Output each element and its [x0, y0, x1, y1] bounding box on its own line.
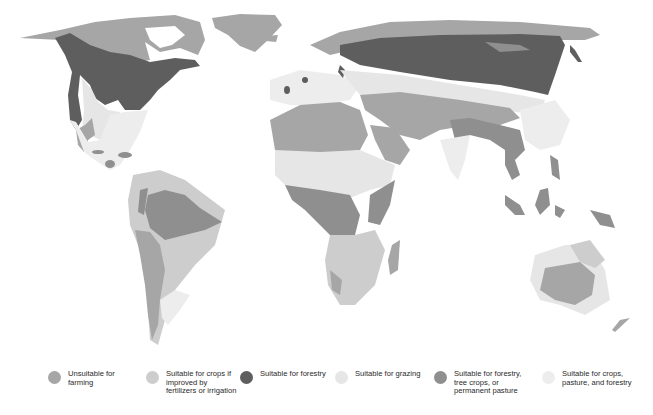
india-crops [440, 135, 470, 180]
legend-swatch-grazing [335, 371, 348, 384]
legend-label-crops-pasture-forestry: Suitable for crops,pasture, and forestry [562, 370, 632, 387]
north-america-region [20, 15, 205, 170]
legend-label-unsuitable: Unsuitable forfarming [68, 370, 115, 387]
legend-label-grazing: Suitable for grazing [355, 370, 420, 379]
legend-swatch-crops-if-improved [146, 371, 159, 384]
madagascar [388, 240, 400, 275]
legend-item-grazing: Suitable for grazing [335, 370, 420, 384]
legend-item-forestry-tree-crops-pasture: Suitable for forestry,tree crops, orperm… [434, 370, 521, 396]
legend-swatch-forestry-tree-crops-pasture [434, 371, 447, 384]
legend-swatch-forestry [240, 371, 253, 384]
iceland [265, 35, 278, 42]
map-legend: Unsuitable forfarming Suitable for crops… [0, 370, 653, 415]
legend-item-crops-if-improved: Suitable for crops ifimproved byfertiliz… [146, 370, 236, 396]
legend-label-forestry: Suitable for forestry [260, 370, 326, 379]
legend-label-crops-if-improved: Suitable for crops ifimproved byfertiliz… [166, 370, 236, 396]
australia-region [530, 240, 630, 332]
new-zealand [612, 318, 630, 332]
world-land-suitability-map [0, 0, 653, 345]
south-america-region [128, 170, 225, 345]
legend-label-forestry-tree-crops-pasture: Suitable for forestry,tree crops, orperm… [454, 370, 521, 396]
legend-item-crops-pasture-forestry: Suitable for crops,pasture, and forestry [542, 370, 632, 387]
southeast-asia-islands [505, 145, 615, 228]
legend-item-unsuitable: Unsuitable forfarming [48, 370, 115, 387]
legend-swatch-unsuitable [48, 371, 61, 384]
greenland [212, 14, 282, 52]
legend-item-forestry: Suitable for forestry [240, 370, 326, 384]
legend-swatch-crops-pasture-forestry [542, 371, 555, 384]
southern-africa-crops [325, 230, 385, 305]
kamchatka [570, 45, 582, 62]
